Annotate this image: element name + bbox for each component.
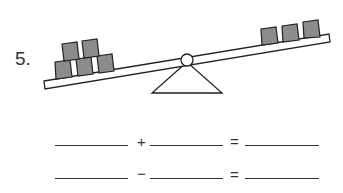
equals-sign: = [230, 134, 239, 149]
blank-2-1[interactable] [55, 178, 128, 179]
blank-2-2[interactable] [150, 178, 223, 179]
blank-2-3[interactable] [245, 178, 319, 179]
blank-1-1[interactable] [55, 145, 128, 146]
plus-sign: + [137, 134, 146, 149]
minus-sign: − [137, 166, 146, 181]
seesaw-illustration [0, 0, 343, 193]
blank-1-3[interactable] [245, 145, 319, 146]
pivot-circle [181, 54, 193, 66]
equals-sign: = [230, 167, 239, 182]
blank-1-2[interactable] [150, 145, 223, 146]
